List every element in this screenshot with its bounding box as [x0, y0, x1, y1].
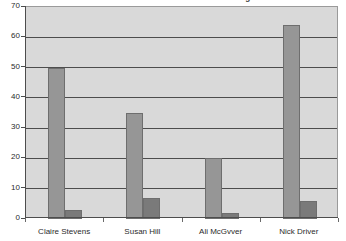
x-axis-label: Nick Driver [260, 227, 338, 237]
y-axis-label: 0 [0, 214, 20, 222]
x-axis-tick [182, 218, 183, 222]
y-axis-label: 60 [0, 32, 20, 40]
y-axis-label: 50 [0, 63, 20, 71]
x-axis-label: Ali McGvver [182, 227, 260, 237]
x-axis-tick [260, 218, 261, 222]
bar [283, 25, 300, 219]
chart-title: Candidates Test Scores at Interview Stag… [0, 0, 346, 3]
bar [48, 68, 65, 219]
x-axis-label: Claire Stevens [25, 227, 103, 237]
x-axis-tick [25, 218, 26, 222]
x-axis-tick [103, 218, 104, 222]
y-axis-line [25, 6, 26, 218]
bar [205, 158, 222, 219]
y-axis-label: 10 [0, 184, 20, 192]
bar [222, 213, 239, 219]
plot-area [25, 6, 338, 218]
y-axis-tick [21, 127, 26, 128]
y-axis-tick [21, 96, 26, 97]
y-axis-tick [21, 187, 26, 188]
y-axis-tick [21, 36, 26, 37]
y-axis-label: 70 [0, 2, 20, 10]
y-axis-tick [21, 66, 26, 67]
bar-chart: Candidates Test Scores at Interview Stag… [0, 0, 346, 241]
y-axis-label: 20 [0, 153, 20, 161]
x-axis-tick [338, 218, 339, 222]
y-axis-label: 40 [0, 93, 20, 101]
y-axis-tick [21, 6, 26, 7]
bar [126, 113, 143, 219]
bar [143, 198, 160, 219]
x-axis-label: Susan Hill [103, 227, 181, 237]
y-axis-label: 30 [0, 123, 20, 131]
y-axis-tick [21, 157, 26, 158]
